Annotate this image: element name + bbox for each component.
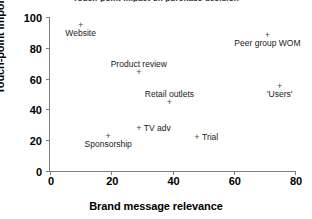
x-axis-tick: 20 — [111, 171, 112, 175]
x-axis-tick: 0 — [50, 171, 51, 175]
x-axis-tick-label: 80 — [290, 176, 302, 187]
chart-title: Touch-point impact on purchase decision — [0, 0, 312, 2]
x-axis-tick-label: 40 — [167, 176, 179, 187]
data-point-label: Peer group WOM — [234, 39, 300, 48]
data-point-label: Retail outlets — [145, 90, 194, 99]
y-axis-tick: 60 — [46, 79, 50, 80]
plus-marker-icon: + — [194, 133, 199, 142]
y-axis-tick: 40 — [46, 109, 50, 110]
data-point-label: Trial — [202, 133, 218, 142]
x-axis-tick-label: 20 — [106, 176, 118, 187]
data-point-label: Sponsorship — [85, 140, 132, 149]
scatter-chart: Touch-point impact on purchase decision … — [0, 0, 312, 219]
data-point-label: TV adv — [144, 124, 171, 133]
y-axis-title: Touch-point importance — [0, 0, 6, 94]
data-point-label: Website — [65, 29, 96, 38]
data-point-label: Product review — [111, 60, 167, 69]
plus-marker-icon: + — [136, 123, 141, 132]
data-point-label: 'Users' — [267, 90, 292, 99]
x-axis-tick-label: 60 — [229, 176, 241, 187]
y-axis-tick: 80 — [46, 48, 50, 49]
y-axis-tick: 20 — [46, 140, 50, 141]
x-axis-title: Brand message relevance — [0, 200, 312, 212]
x-axis-tick: 80 — [295, 171, 296, 175]
y-axis-tick-label: 80 — [30, 43, 42, 54]
y-axis-tick: 100 — [46, 17, 50, 18]
y-axis-tick-label: 100 — [24, 13, 42, 24]
y-axis-tick-label: 20 — [30, 136, 42, 147]
x-axis-tick: 40 — [173, 171, 174, 175]
y-axis-tick-label: 40 — [30, 105, 42, 116]
y-axis-tick-label: 0 — [36, 167, 42, 178]
y-axis-tick-label: 60 — [30, 74, 42, 85]
x-axis-tick-label: 0 — [48, 176, 54, 187]
plot-area: 020406080100020406080+Website+Peer group… — [49, 17, 295, 172]
x-axis-tick: 60 — [234, 171, 235, 175]
